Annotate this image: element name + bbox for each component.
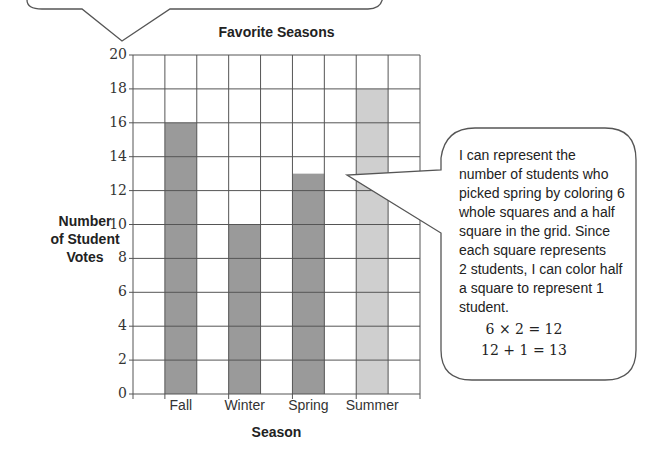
- x-category-label: Spring: [273, 397, 343, 413]
- x-axis-label: Season: [133, 424, 420, 440]
- callout-line: student.: [459, 298, 631, 317]
- callout-line: picked spring by coloring 6: [459, 184, 631, 203]
- bar-spring: [292, 174, 324, 394]
- y-tick-label: 0: [97, 385, 127, 401]
- y-tick-label: 6: [97, 283, 127, 299]
- y-tick-label: 8: [97, 249, 127, 265]
- callout-explanation: I can represent the number of students w…: [459, 146, 631, 317]
- y-tick-label: 4: [97, 317, 127, 333]
- y-tick-label: 14: [97, 148, 127, 164]
- bars: [165, 89, 388, 394]
- callout-line: I can represent the: [459, 146, 631, 165]
- callout-content: I can represent the number of students w…: [459, 146, 631, 361]
- x-category-label: Summer: [337, 397, 407, 413]
- callout-line: 2 students, I can color half: [459, 260, 631, 279]
- y-tick-label: 10: [97, 216, 127, 232]
- chart-title: Favorite Seasons: [133, 24, 420, 40]
- y-tick-label: 2: [97, 351, 127, 367]
- y-tick-label: 20: [97, 46, 127, 62]
- y-tick-label: 18: [97, 80, 127, 96]
- bar-summer: [356, 89, 388, 394]
- y-tick-label: 16: [97, 114, 127, 130]
- equation: 6 × 2 = 12: [459, 319, 589, 340]
- callout-line: square in the grid. Since: [459, 222, 631, 241]
- y-axis-label-line: of Student: [40, 230, 130, 248]
- callout-equations: 6 × 2 = 12 12 + 1 = 13: [459, 319, 589, 361]
- callout-line: number of students who: [459, 165, 631, 184]
- callout-line: a square to represent 1: [459, 279, 631, 298]
- x-category-label: Fall: [146, 397, 216, 413]
- x-category-label: Winter: [210, 397, 280, 413]
- equation: 12 + 1 = 13: [459, 340, 589, 361]
- callout-line: each square represents: [459, 241, 631, 260]
- callout-line: whole squares and a half: [459, 203, 631, 222]
- bar-winter: [229, 225, 261, 395]
- y-tick-label: 12: [97, 182, 127, 198]
